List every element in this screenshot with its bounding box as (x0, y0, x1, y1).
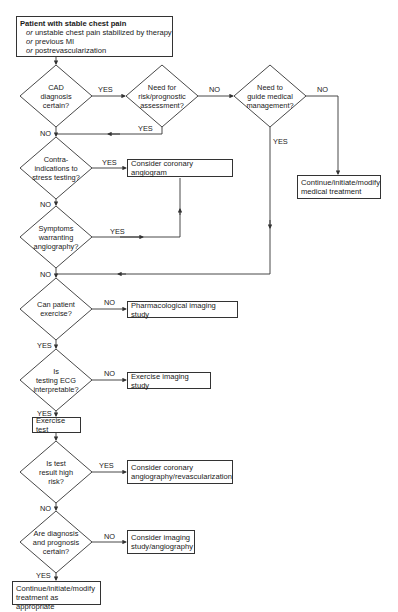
action-treatment-appropriate: Continue/initiate/modify treatment as ap… (12, 581, 101, 605)
start-line-3: postrevascularization (33, 46, 106, 55)
edge-label-symptoms-no: NO (40, 270, 51, 279)
edge-label-ecg-no: NO (104, 369, 115, 378)
decision-ecg: Is testing ECG interpretable? (22, 364, 90, 396)
decision-text: Are diagnosis (34, 529, 79, 538)
action-text: treatment as appropriate (16, 593, 97, 611)
decision-text: Need to (257, 83, 283, 92)
action-text: Consider coronary (131, 463, 229, 472)
action-exercise-test: Exercise test (32, 417, 81, 433)
action-text: medical treatment (301, 187, 377, 196)
action-medical-treatment: Continue/initiate/modify medical treatme… (297, 175, 381, 199)
decision-certain: Are diagnosis and prognosis certain? (22, 526, 90, 558)
action-text: angiography/revascularization (131, 472, 229, 481)
decision-text: stress testing? (32, 173, 80, 182)
edge-label-highrisk-no: NO (40, 504, 51, 513)
action-coronary-angiogram: Consider coronary angiogram (127, 159, 233, 177)
decision-text: guide medical (247, 92, 293, 101)
decision-text: CAD (48, 83, 64, 92)
decision-text: warranting (39, 233, 74, 242)
decision-text: exercise? (40, 309, 72, 318)
action-text: Continue/initiate/modify (301, 178, 377, 187)
start-line-1: unstable chest pain stabilized by therap… (33, 28, 172, 37)
start-line-prefix: or (26, 37, 33, 46)
decision-text: Can patient (37, 300, 75, 309)
edge-label-guide-yes: YES (273, 137, 288, 146)
edge-label-exercise-no: NO (104, 298, 115, 307)
decision-text: Symptoms (39, 224, 74, 233)
decision-text: testing ECG (36, 376, 76, 385)
decision-text: management? (246, 101, 293, 110)
edge-label-contra-yes: YES (102, 158, 117, 167)
edge-label-risk-no: NO (209, 85, 220, 94)
decision-highrisk: Is test result high risk? (22, 456, 90, 488)
action-text: Exercise test (36, 416, 77, 434)
decision-text: indications to (34, 164, 77, 173)
decision-symptoms: Symptoms warranting angiography? (22, 221, 90, 253)
edge-label-exercise-yes: YES (37, 341, 52, 350)
decision-text: certain? (43, 101, 69, 110)
edge-label-symptoms-yes: YES (110, 227, 125, 236)
decision-text: risk? (48, 477, 64, 486)
decision-exercise: Can patient exercise? (22, 298, 90, 320)
start-line-prefix: or (26, 46, 33, 55)
start-title: Patient with stable chest pain (20, 19, 126, 28)
action-text: Exercise imaging study (131, 372, 207, 390)
edge-label-ecg-yes: YES (37, 409, 52, 418)
action-text: Pharmacological imaging study (131, 301, 234, 319)
action-text: study/angiography (131, 542, 191, 551)
decision-text: Need for (148, 83, 176, 92)
edge-label-cad-no: NO (40, 129, 51, 138)
action-text: Continue/initiate/modify (16, 584, 97, 593)
edge-label-contra-no: NO (40, 200, 51, 209)
action-angio-revasc: Consider coronary angiography/revascular… (127, 460, 233, 484)
start-line-2: previous MI (33, 37, 74, 46)
decision-cad: CAD diagnosis certain? (26, 80, 86, 112)
decision-text: interpretable? (33, 385, 78, 394)
decision-guide: Need to guide medical management? (236, 80, 304, 112)
edge-label-highrisk-yes: YES (99, 461, 114, 470)
decision-text: angiography? (34, 242, 79, 251)
decision-text: assessment? (140, 101, 184, 110)
decision-text: Is (53, 367, 59, 376)
decision-text: risk/prognostic (138, 92, 186, 101)
edge-label-certain-yes: YES (36, 571, 51, 580)
decision-text: Is test (46, 459, 66, 468)
decision-text: Contra- (44, 155, 69, 164)
edge-label-guide-no: NO (317, 85, 328, 94)
action-imaging-angio: Consider imaging study/angiography (127, 530, 195, 554)
decision-text: diagnosis (40, 92, 71, 101)
edge-label-cad-yes: YES (98, 85, 113, 94)
edge-label-risk-yes: YES (138, 124, 153, 133)
action-text: Consider imaging (131, 533, 191, 542)
decision-risk: Need for risk/prognostic assessment? (128, 80, 196, 112)
decision-contra: Contra- indications to stress testing? (22, 152, 90, 184)
decision-text: certain? (43, 547, 69, 556)
action-exercise-imaging: Exercise imaging study (127, 372, 211, 389)
action-text: Consider coronary angiogram (131, 159, 229, 177)
decision-text: result high (39, 468, 73, 477)
start-line-prefix: or (26, 28, 33, 37)
start-box: Patient with stable chest pain or unstab… (16, 16, 173, 57)
decision-text: and prognosis (33, 538, 79, 547)
action-pharm-imaging: Pharmacological imaging study (127, 301, 238, 318)
edge-label-certain-no: NO (104, 532, 115, 541)
